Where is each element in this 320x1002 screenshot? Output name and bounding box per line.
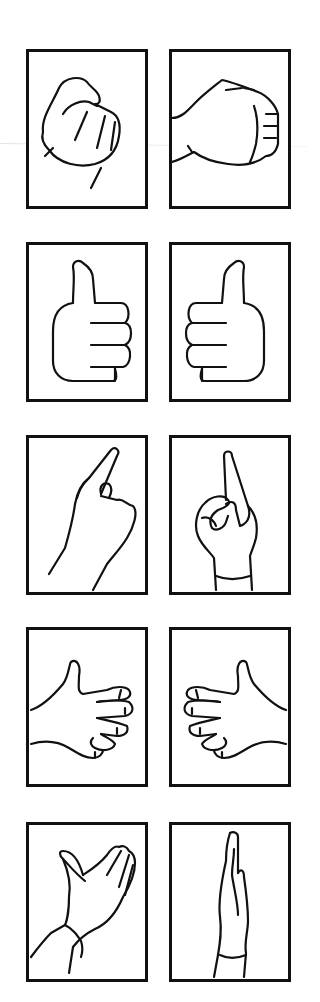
gesture-card-index-point-front: Index finger pointing (front) [169, 435, 291, 595]
open-palm-angled-icon [29, 825, 145, 979]
index-point-back-icon [29, 438, 145, 592]
claw-hand-right-icon [172, 630, 288, 784]
gesture-card-thumbs-up-left: Thumbs up [26, 242, 148, 402]
flat-hand-side-icon [172, 825, 288, 979]
gesture-card-open-palm-angled: Open palm (angled) [26, 822, 148, 982]
gesture-card-flat-hand-side: Flat hand (side) [169, 822, 291, 982]
gesture-card-claw-hand-right: Curled fingers (right) [169, 627, 291, 787]
thumbs-up-left-icon [29, 245, 145, 399]
gesture-card-fist-front: Fist (front view) [26, 49, 148, 209]
claw-hand-left-icon [29, 630, 145, 784]
thumbs-up-right-icon [172, 245, 288, 399]
gesture-card-thumbs-up-right: Thumbs up (mirrored) [169, 242, 291, 402]
gesture-card-index-point-back: Index finger pointing (back) [26, 435, 148, 595]
gesture-card-claw-hand-left: Curled fingers (left) [26, 627, 148, 787]
index-point-front-icon [172, 438, 288, 592]
fist-front-icon [29, 52, 145, 206]
fist-side-icon [172, 52, 288, 206]
gesture-card-fist-side: Fist (side view) [169, 49, 291, 209]
